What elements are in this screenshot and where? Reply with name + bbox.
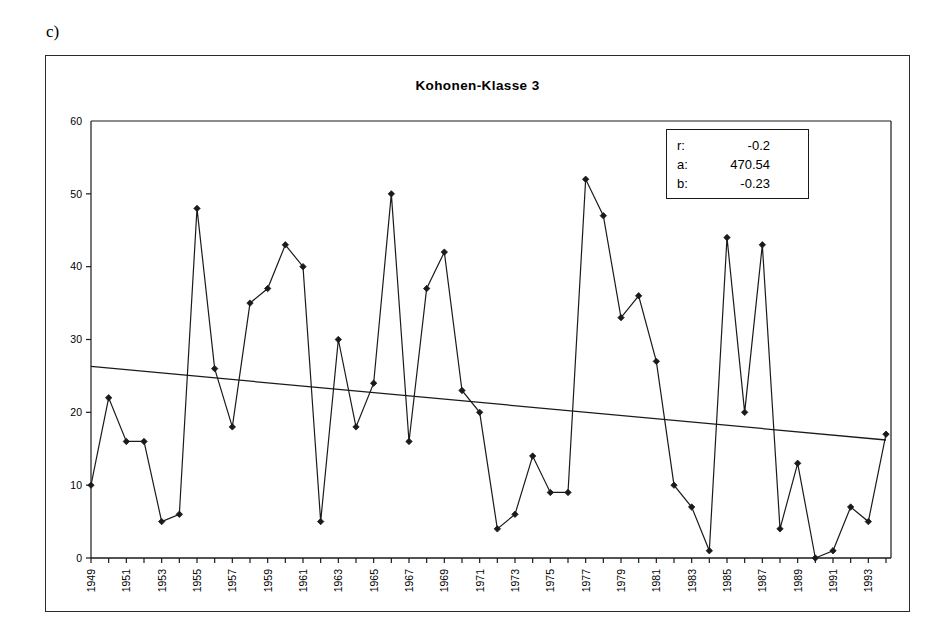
- stats-value-b: -0.23: [711, 174, 798, 193]
- stats-value-r: -0.2: [711, 136, 798, 155]
- svg-text:40: 40: [70, 260, 82, 272]
- stats-row-b: b: -0.23: [667, 174, 808, 193]
- svg-text:1987: 1987: [756, 569, 768, 593]
- svg-text:1965: 1965: [368, 569, 380, 593]
- svg-text:1957: 1957: [226, 569, 238, 593]
- svg-text:1983: 1983: [686, 569, 698, 593]
- svg-text:20: 20: [70, 406, 82, 418]
- svg-text:1993: 1993: [862, 569, 874, 593]
- data-series-line: [91, 179, 886, 558]
- svg-text:1985: 1985: [721, 569, 733, 593]
- panel-letter: c): [46, 22, 59, 42]
- svg-text:50: 50: [70, 188, 82, 200]
- svg-text:10: 10: [70, 479, 82, 491]
- svg-text:1979: 1979: [615, 569, 627, 593]
- svg-text:1963: 1963: [332, 569, 344, 593]
- data-point-markers: [88, 176, 889, 561]
- chart-frame: Kohonen-Klasse 3 0102030405060 194919511…: [45, 55, 910, 612]
- svg-text:0: 0: [76, 552, 82, 564]
- stats-label-r: r:: [677, 136, 711, 155]
- svg-text:1961: 1961: [297, 569, 309, 593]
- svg-text:1969: 1969: [438, 569, 450, 593]
- regression-stats-box: r: -0.2 a: 470.54 b: -0.23: [666, 129, 809, 199]
- svg-text:1975: 1975: [544, 569, 556, 593]
- svg-text:1989: 1989: [792, 569, 804, 593]
- svg-text:1951: 1951: [120, 569, 132, 593]
- svg-text:1981: 1981: [650, 569, 662, 593]
- trend-line: [91, 366, 886, 440]
- x-axis: 1949195119531955195719591961196319651967…: [85, 558, 891, 592]
- svg-text:1977: 1977: [580, 569, 592, 593]
- stats-row-r: r: -0.2: [667, 136, 808, 155]
- svg-text:1973: 1973: [509, 569, 521, 593]
- svg-text:1955: 1955: [191, 569, 203, 593]
- stats-label-a: a:: [677, 155, 711, 174]
- svg-text:1991: 1991: [827, 569, 839, 593]
- stats-label-b: b:: [677, 174, 711, 193]
- svg-text:1967: 1967: [403, 569, 415, 593]
- svg-text:1949: 1949: [85, 569, 97, 593]
- svg-text:30: 30: [70, 333, 82, 345]
- svg-text:1959: 1959: [262, 569, 274, 593]
- svg-text:60: 60: [70, 115, 82, 127]
- svg-text:1971: 1971: [474, 569, 486, 593]
- stats-value-a: 470.54: [711, 155, 798, 174]
- figure-container: c) Kohonen-Klasse 3 0102030405060 194919…: [0, 0, 949, 641]
- stats-row-a: a: 470.54: [667, 155, 808, 174]
- svg-text:1953: 1953: [156, 569, 168, 593]
